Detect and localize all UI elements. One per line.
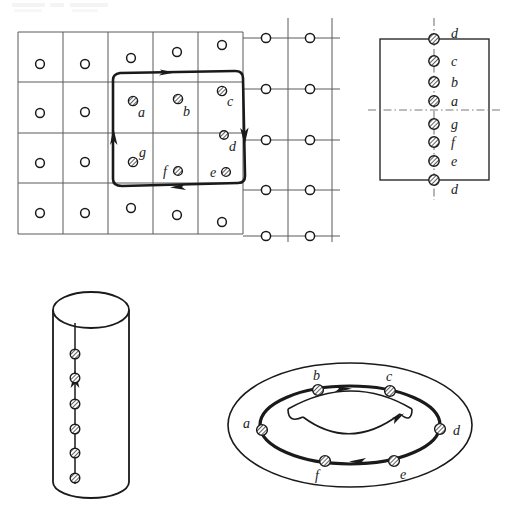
crossed-circle-site-a xyxy=(257,425,268,436)
crossed-circle-site xyxy=(70,373,80,383)
crossed-circle-site-d-bottom xyxy=(429,175,439,185)
rectangle-label-g: g xyxy=(451,117,458,132)
open-circle-site xyxy=(305,185,314,194)
crossed-circle-site-e xyxy=(222,168,231,177)
crossed-circle-site-f xyxy=(320,456,331,467)
open-circle-site xyxy=(305,135,314,144)
crossed-circle-site-c xyxy=(385,386,396,397)
rectangle-label-d-top: d xyxy=(451,26,459,41)
open-circle-site xyxy=(218,218,227,227)
crossed-circle-site xyxy=(70,349,80,359)
crossed-circle-site-d-top xyxy=(429,34,439,44)
crossed-circle-site xyxy=(70,399,80,409)
crossed-circle-site-f xyxy=(429,137,439,147)
rectangle-label-d-bottom: d xyxy=(451,182,459,197)
open-circle-site xyxy=(127,54,136,63)
crossed-circle-site xyxy=(70,473,80,483)
torus-label-b: b xyxy=(313,368,320,383)
open-circle-site xyxy=(261,84,270,93)
lattice-label-a: a xyxy=(138,105,145,120)
open-circle-site xyxy=(36,109,45,118)
crossed-circle-site-b xyxy=(313,385,324,396)
topology-figure: a b c d e f g d c b xyxy=(0,0,510,512)
open-circle-site xyxy=(305,33,314,42)
cylinder-panel xyxy=(53,292,129,498)
crossed-circle-site-d xyxy=(435,424,446,435)
open-circle-site xyxy=(261,231,270,240)
cylinder-top-ellipse xyxy=(53,292,129,328)
crossed-circle-site-c xyxy=(429,56,439,66)
open-circle-site xyxy=(305,231,314,240)
crossed-circle-site-a xyxy=(429,96,439,106)
crossed-circle-site-b xyxy=(429,77,439,87)
open-circle-site xyxy=(81,108,90,117)
crossed-circle-site-e xyxy=(429,156,439,166)
torus-label-c: c xyxy=(386,369,393,384)
open-circle-site xyxy=(127,204,136,213)
open-circle-site xyxy=(36,209,45,218)
open-circle-site xyxy=(218,41,227,50)
crossed-circle-site-b xyxy=(173,94,182,103)
crossed-circle-site-a xyxy=(128,96,137,105)
rectangle-label-e: e xyxy=(451,154,457,169)
crossed-circle-site xyxy=(70,424,80,434)
lattice-label-g: g xyxy=(139,145,146,160)
open-circle-site xyxy=(81,60,90,69)
crossed-circle-site-f xyxy=(174,167,183,176)
lattice-label-c: c xyxy=(227,94,234,109)
crossed-circle-site xyxy=(70,448,80,458)
open-circle-site xyxy=(261,33,270,42)
crossed-circle-site-g xyxy=(128,157,137,166)
open-circle-site xyxy=(36,60,45,69)
open-circle-site xyxy=(81,158,90,167)
cylinder-body xyxy=(53,310,129,498)
open-circle-site xyxy=(305,84,314,93)
torus-label-e: e xyxy=(400,467,406,482)
crossed-circle-site-e xyxy=(389,456,400,467)
crossed-circle-site-d xyxy=(220,131,229,140)
lattice-label-b: b xyxy=(183,104,190,119)
rectangle-label-b: b xyxy=(451,75,458,90)
open-circle-site xyxy=(173,211,182,220)
crossed-circle-site-c xyxy=(217,86,226,95)
open-circle-site xyxy=(173,48,182,57)
rectangle-label-a: a xyxy=(451,94,458,109)
open-circle-site xyxy=(81,209,90,218)
torus-label-d: d xyxy=(453,423,461,438)
lattice-label-d: d xyxy=(229,139,237,154)
open-circle-site xyxy=(261,135,270,144)
rectangle-label-c: c xyxy=(451,54,458,69)
open-circle-site xyxy=(261,185,270,194)
open-circle-site xyxy=(36,159,45,168)
crossed-circle-site-g xyxy=(429,119,439,129)
torus-label-a: a xyxy=(243,416,250,431)
lattice-label-e: e xyxy=(210,165,216,180)
